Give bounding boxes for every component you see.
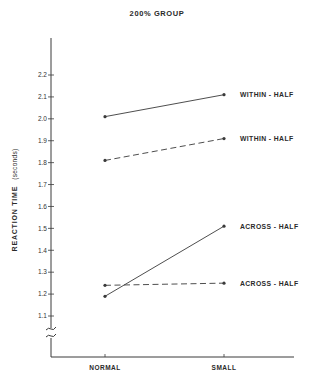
series-label: WITHIN - HALF (240, 135, 294, 142)
data-point (103, 115, 106, 118)
axes (46, 38, 294, 357)
y-tick-label: 1.7 (38, 181, 47, 188)
y-tick-label: 1.3 (38, 268, 47, 275)
y-axis-ticks: 1.11.21.31.41.51.61.71.81.92.02.12.2 (38, 71, 54, 319)
x-category-label: SMALL (212, 364, 237, 371)
y-tick-label: 1.2 (38, 290, 47, 297)
y-tick-label: 1.8 (38, 159, 47, 166)
data-series: WITHIN - HALFWITHIN - HALFACROSS - HALFA… (103, 91, 298, 298)
series-line: WITHIN - HALF (103, 135, 293, 162)
data-point (103, 295, 106, 298)
series-line: WITHIN - HALF (103, 91, 293, 118)
y-tick-label: 1.4 (38, 247, 47, 254)
y-tick-label: 2.2 (38, 71, 47, 78)
data-point (103, 159, 106, 162)
data-point (222, 282, 225, 285)
chart-plot-area: 1.11.21.31.41.51.61.71.81.92.02.12.2 NOR… (0, 0, 314, 387)
data-point (222, 137, 225, 140)
data-point (222, 93, 225, 96)
data-point (103, 284, 106, 287)
y-tick-label: 1.9 (38, 137, 47, 144)
axis-break-icon (46, 334, 56, 337)
x-category-label: NORMAL (89, 364, 121, 371)
y-tick-label: 1.6 (38, 203, 47, 210)
y-tick-label: 1.5 (38, 225, 47, 232)
data-point (222, 225, 225, 228)
series-label: ACROSS - HALF (240, 280, 298, 287)
series-label: WITHIN - HALF (240, 91, 294, 98)
y-tick-label: 2.0 (38, 115, 47, 122)
y-tick-label: 2.1 (38, 93, 47, 100)
series-line: ACROSS - HALF (103, 280, 298, 287)
y-tick-label: 1.1 (38, 312, 47, 319)
series-label: ACROSS - HALF (240, 223, 298, 230)
